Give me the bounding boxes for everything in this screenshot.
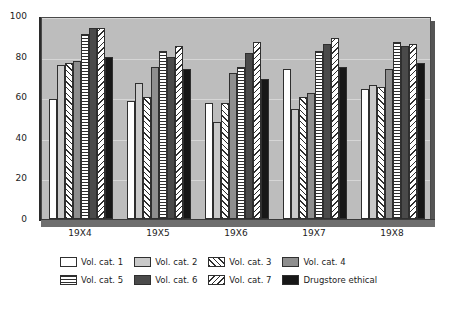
legend-label: Vol. cat. 3: [229, 257, 271, 267]
y-tick-label: 0: [21, 215, 27, 224]
bar: [229, 73, 237, 219]
legend-swatch-icon: [208, 257, 225, 267]
legend-swatch-icon: [282, 275, 299, 285]
plot-area: [41, 17, 431, 220]
legend-swatch-icon: [134, 275, 151, 285]
bar: [261, 79, 269, 219]
y-tick-label: 100: [10, 12, 27, 21]
bar: [299, 97, 307, 219]
bar: [323, 44, 331, 219]
bar: [205, 103, 213, 219]
bar: [237, 67, 245, 219]
bar-group: [198, 18, 276, 219]
bar: [151, 67, 159, 219]
bar: [97, 28, 105, 219]
bar: [175, 46, 183, 219]
bar: [361, 89, 369, 219]
bar: [369, 85, 377, 219]
x-tick-label: 19X5: [119, 228, 197, 238]
bar: [393, 42, 401, 219]
bar: [49, 99, 57, 219]
legend-item[interactable]: Drugstore ethical: [282, 275, 377, 285]
bar: [339, 67, 347, 219]
legend-item[interactable]: Vol. cat. 6: [134, 275, 197, 285]
legend-item[interactable]: Vol. cat. 7: [208, 275, 271, 285]
bar: [331, 38, 339, 219]
legend-label: Vol. cat. 4: [303, 257, 345, 267]
bar: [221, 103, 229, 219]
x-tick-label: 19X6: [197, 228, 275, 238]
bar: [291, 109, 299, 219]
y-axis-labels: 020406080100: [0, 17, 35, 221]
legend-label: Vol. cat. 1: [81, 257, 123, 267]
legend-swatch-icon: [208, 275, 225, 285]
bar: [385, 69, 393, 219]
bar: [143, 97, 151, 219]
legend-swatch-icon: [282, 257, 299, 267]
bar: [57, 65, 65, 219]
x-tick-label: 19X7: [275, 228, 353, 238]
bar-group: [120, 18, 198, 219]
bar: [81, 34, 89, 219]
y-tick-label: 20: [16, 174, 27, 183]
x-axis-baseline: [41, 219, 435, 227]
figure: 020406080100 19X419X519X619X719X8 Vol. c…: [0, 0, 457, 313]
legend-swatch-icon: [60, 257, 77, 267]
legend-swatch-icon: [60, 275, 77, 285]
bar: [73, 61, 81, 219]
bar-group: [276, 18, 354, 219]
legend-row-1: Vol. cat. 1Vol. cat. 2Vol. cat. 3Vol. ca…: [60, 253, 400, 271]
bar: [167, 57, 175, 219]
bar: [213, 122, 221, 219]
bar: [307, 93, 315, 219]
bar: [401, 46, 409, 219]
legend-item[interactable]: Vol. cat. 2: [134, 257, 197, 267]
bar: [65, 63, 73, 219]
plot-wrapper: [41, 17, 431, 220]
bar: [377, 87, 385, 219]
x-tick-label: 19X8: [353, 228, 431, 238]
bar: [127, 101, 135, 219]
bar: [315, 51, 323, 219]
legend-item[interactable]: Vol. cat. 1: [60, 257, 123, 267]
y-tick-label: 80: [16, 53, 27, 62]
x-tick-label: 19X4: [41, 228, 119, 238]
legend-item[interactable]: Vol. cat. 4: [282, 257, 345, 267]
bar-group: [354, 18, 431, 219]
legend-label: Vol. cat. 2: [155, 257, 197, 267]
bar: [159, 51, 167, 219]
y-tick-label: 60: [16, 93, 27, 102]
chart-legend: Vol. cat. 1Vol. cat. 2Vol. cat. 3Vol. ca…: [60, 253, 400, 289]
bar: [283, 69, 291, 219]
legend-swatch-icon: [134, 257, 151, 267]
legend-label: Vol. cat. 7: [229, 275, 271, 285]
legend-label: Vol. cat. 5: [81, 275, 123, 285]
bar: [135, 83, 143, 219]
bar: [105, 57, 113, 219]
y-tick-label: 40: [16, 134, 27, 143]
legend-row-2: Vol. cat. 5Vol. cat. 6Vol. cat. 7Drugsto…: [60, 271, 400, 289]
legend-label: Vol. cat. 6: [155, 275, 197, 285]
bar-group: [42, 18, 120, 219]
bar: [409, 44, 417, 219]
bar: [417, 63, 425, 219]
bar: [183, 69, 191, 219]
bar: [245, 53, 253, 219]
legend-label: Drugstore ethical: [303, 275, 377, 285]
legend-item[interactable]: Vol. cat. 3: [208, 257, 271, 267]
bar: [253, 42, 261, 219]
legend-item[interactable]: Vol. cat. 5: [60, 275, 123, 285]
bar: [89, 28, 97, 219]
